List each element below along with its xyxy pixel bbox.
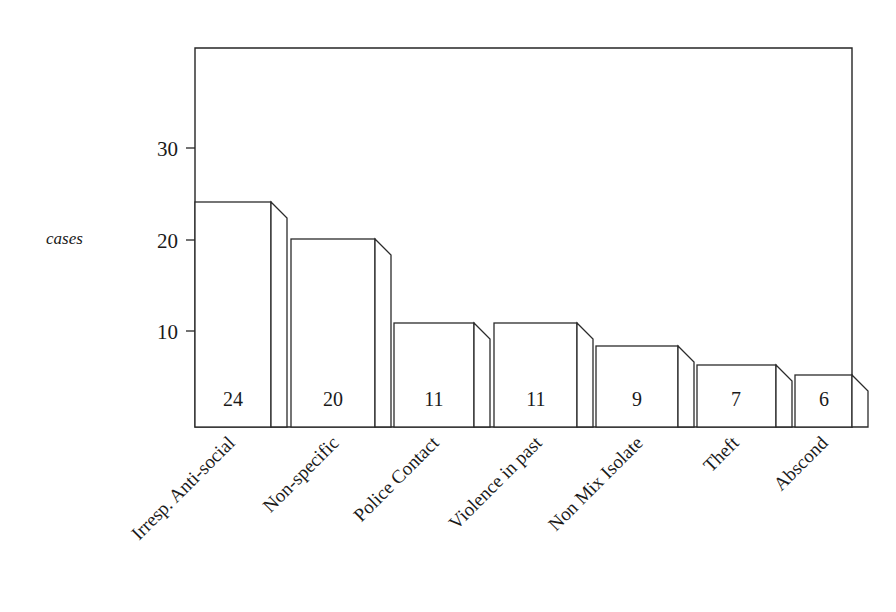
- bar-side-4: [577, 323, 593, 427]
- bar-value-label-2: 20: [323, 388, 343, 410]
- cat-label-2: Non-specific: [259, 432, 343, 516]
- bar-face-3: [394, 323, 474, 427]
- bar-side-6: [776, 365, 792, 427]
- bar-chart: 30 20 10 cases 24 20 11 11: [0, 0, 896, 612]
- bar-group-2: 20: [291, 239, 391, 427]
- cat-label-4: Violence in past: [444, 431, 546, 533]
- bar-group-7: 6: [795, 375, 868, 427]
- bar-side-2: [375, 239, 391, 427]
- bar-side-5: [678, 346, 694, 427]
- bar-value-label-4: 11: [526, 388, 545, 410]
- cat-label-1: Irresp. Anti-social: [127, 432, 239, 544]
- chart-container: 30 20 10 cases 24 20 11 11: [0, 0, 896, 612]
- bar-side-3: [474, 323, 490, 427]
- cat-label-3: Police Contact: [349, 431, 443, 525]
- cat-label-6: Theft: [699, 431, 743, 475]
- y-axis-tick-labels: 30 20 10: [157, 137, 178, 344]
- y-axis-ticks: [186, 148, 195, 331]
- bar-group-3: 11: [394, 323, 490, 427]
- ytick-label-20: 20: [157, 229, 178, 253]
- bar-side-7: [852, 375, 868, 427]
- x-axis-category-labels: Irresp. Anti-social Non-specific Police …: [127, 431, 832, 543]
- bar-face-5: [596, 346, 678, 427]
- bar-face-4: [494, 323, 577, 427]
- y-axis-title: cases: [46, 229, 83, 248]
- bar-value-label-3: 11: [424, 388, 443, 410]
- cat-label-5: Non Mix Isolate: [544, 432, 647, 535]
- bar-value-label-6: 7: [731, 388, 741, 410]
- bar-value-label-5: 9: [632, 388, 642, 410]
- bar-value-label-7: 6: [819, 388, 829, 410]
- ytick-label-10: 10: [157, 320, 178, 344]
- bar-group-1: 24: [195, 202, 287, 427]
- cat-label-7: Abscond: [769, 432, 832, 495]
- bar-group-5: 9: [596, 346, 694, 427]
- bar-group-4: 11: [494, 323, 593, 427]
- bar-value-label-1: 24: [223, 388, 243, 410]
- bar-side-1: [271, 202, 287, 427]
- ytick-label-30: 30: [157, 137, 178, 161]
- bar-group-6: 7: [697, 365, 792, 427]
